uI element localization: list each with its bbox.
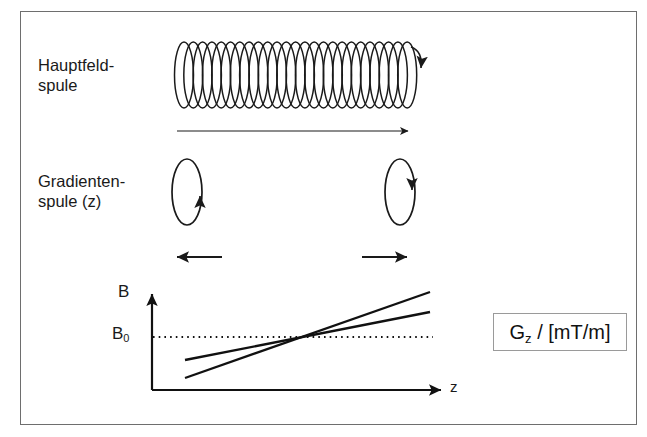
figure-root: Hauptfeld- spule Gradienten- spule (z) B… [0, 0, 647, 437]
gz-symbol: G [510, 321, 526, 343]
label-gradient-coil: Gradienten- spule (z) [38, 171, 125, 211]
gz-unit: [mT/m] [548, 321, 610, 343]
plot-b0-label: B0 [112, 324, 129, 345]
gz-separator: / [532, 321, 549, 343]
plot-y-axis-label: B [118, 282, 129, 303]
b0-base: B [112, 324, 123, 343]
b0-subscript: 0 [123, 332, 129, 344]
gradient-unit-box: Gz / [mT/m] [493, 313, 627, 351]
plot-x-axis-label: z [450, 378, 458, 396]
gz-subscript: z [525, 331, 532, 346]
gradient-unit-text: Gz / [mT/m] [510, 321, 611, 344]
label-main-field-coil: Hauptfeld- spule [38, 55, 114, 95]
